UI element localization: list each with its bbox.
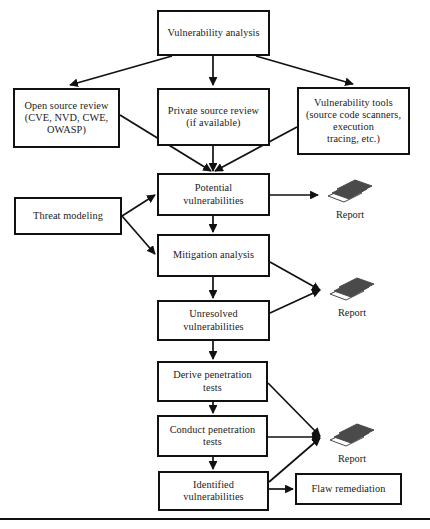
report-output-report-unresolved: Report xyxy=(326,276,378,318)
node-label-potential-vulns: Potentialvulnerabilities xyxy=(162,182,265,206)
report-label: Report xyxy=(324,209,376,220)
edge-unresolved-vulns-to-report xyxy=(270,290,320,313)
edge-derive-pen-tests-to-report xyxy=(268,383,320,436)
flowchart-canvas: Vulnerability analysisOpen source review… xyxy=(0,0,430,529)
report-document-stack-icon xyxy=(326,276,378,306)
node-label-threat-modeling: Threat modeling xyxy=(19,210,117,222)
edge-vuln-analysis-to-open-source-review xyxy=(70,56,172,85)
edge-threat-modeling-to-mitigation-analysis xyxy=(122,216,155,254)
report-label: Report xyxy=(326,307,378,318)
node-mitigation-analysis[interactable]: Mitigation analysis xyxy=(157,234,270,277)
node-label-vulnerability-tools: Vulnerability tools(source code scanners… xyxy=(302,97,405,146)
node-label-derive-pen-tests: Derive penetrationtests xyxy=(162,369,263,393)
edge-mitigation-analysis-to-report xyxy=(270,262,320,290)
edge-threat-modeling-to-potential-vulns xyxy=(122,195,155,216)
report-label: Report xyxy=(326,453,378,464)
node-label-flaw-remediation: Flaw remediation xyxy=(300,483,397,495)
node-identified-vulns[interactable]: Identifiedvulnerabilities xyxy=(158,471,269,511)
node-vulnerability-tools[interactable]: Vulnerability tools(source code scanners… xyxy=(297,87,410,155)
node-unresolved-vulns[interactable]: Unresolvedvulnerabilities xyxy=(157,300,270,341)
node-threat-modeling[interactable]: Threat modeling xyxy=(14,197,122,235)
node-derive-pen-tests[interactable]: Derive penetrationtests xyxy=(157,361,268,402)
node-vuln-analysis[interactable]: Vulnerability analysis xyxy=(157,10,270,56)
report-output-report-potential: Report xyxy=(324,178,376,220)
node-label-conduct-pen-tests: Conduct penetrationtests xyxy=(162,424,263,448)
node-label-vuln-analysis: Vulnerability analysis xyxy=(162,27,265,39)
node-private-source-review[interactable]: Private source review(if available) xyxy=(157,88,270,146)
report-document-stack-icon xyxy=(324,178,376,208)
node-potential-vulns[interactable]: Potentialvulnerabilities xyxy=(157,173,270,216)
node-flaw-remediation[interactable]: Flaw remediation xyxy=(295,473,402,505)
node-conduct-pen-tests[interactable]: Conduct penetrationtests xyxy=(157,415,268,457)
node-label-mitigation-analysis: Mitigation analysis xyxy=(162,249,265,261)
report-document-stack-icon xyxy=(326,422,378,452)
edge-vuln-analysis-to-vulnerability-tools xyxy=(256,56,353,84)
node-label-private-source-review: Private source review(if available) xyxy=(162,105,265,129)
report-output-report-pentest: Report xyxy=(326,422,378,464)
footer-rule xyxy=(0,518,430,520)
node-label-unresolved-vulns: Unresolvedvulnerabilities xyxy=(162,308,265,332)
node-label-identified-vulns: Identifiedvulnerabilities xyxy=(163,479,264,503)
node-open-source-review[interactable]: Open source review(CVE, NVD, CWE,OWASP) xyxy=(13,88,120,148)
node-label-open-source-review: Open source review(CVE, NVD, CWE,OWASP) xyxy=(18,100,115,136)
